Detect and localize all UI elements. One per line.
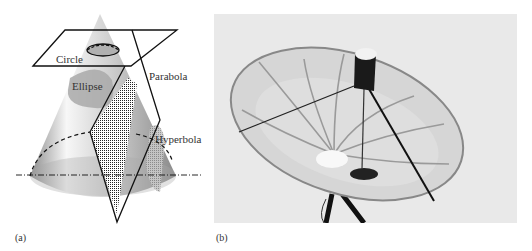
label-hyperbola: Hyperbola xyxy=(155,133,202,145)
caption-b: (b) xyxy=(216,232,228,243)
caption-a: (a) xyxy=(15,232,26,243)
label-ellipse: Ellipse xyxy=(72,80,103,92)
parabolic-dish xyxy=(214,14,517,223)
label-parabola: Parabola xyxy=(149,70,188,82)
conic-sections-diagram: Circle Ellipse Parabola Hyperbola xyxy=(0,0,205,251)
panel-a-conic-sections: Circle Ellipse Parabola Hyperbola (a) xyxy=(0,0,205,251)
circle-section xyxy=(87,44,119,56)
dish-photo xyxy=(214,14,517,223)
label-circle: Circle xyxy=(56,53,83,65)
panel-b-dish-photo: (b) xyxy=(205,0,532,251)
